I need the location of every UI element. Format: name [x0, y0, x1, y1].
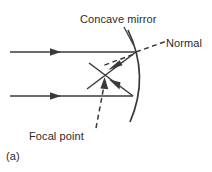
normal-line — [136, 41, 167, 52]
incident-ray-upper — [10, 48, 136, 56]
ray-diagram-canvas — [0, 0, 212, 172]
panel-label: (a) — [6, 150, 20, 162]
incident-ray-lower — [10, 92, 133, 100]
reflected-ray-upper — [87, 52, 136, 89]
incident-ray-upper-arrowhead — [50, 48, 61, 56]
optics-figure-panel-a: Concave mirror Normal Focal point (a) — [0, 0, 212, 172]
concave-mirror-label: Concave mirror — [80, 13, 157, 25]
focal-point-leader — [96, 77, 108, 128]
reflected-ray-lower-arrowhead — [109, 80, 121, 90]
normal-label: Normal — [166, 37, 202, 49]
focal-point-label: Focal point — [29, 130, 84, 142]
concave-mirror-arc — [128, 30, 140, 122]
incident-ray-lower-arrowhead — [50, 92, 61, 100]
